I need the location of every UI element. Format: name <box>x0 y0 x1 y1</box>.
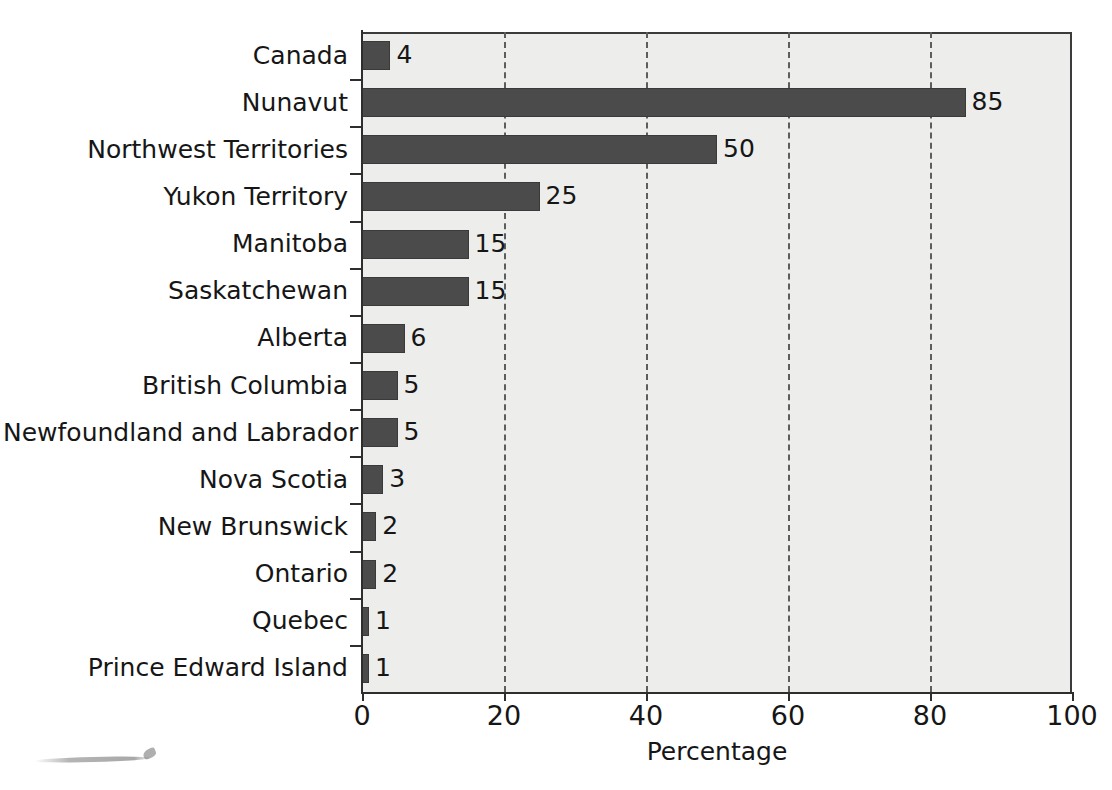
bar <box>362 324 405 353</box>
bar <box>362 560 376 589</box>
category-label: Prince Edward Island <box>3 653 348 683</box>
category-label: Newfoundland and Labrador <box>3 418 348 448</box>
bar <box>362 230 469 259</box>
category-label: British Columbia <box>3 371 348 401</box>
category-label: Nunavut <box>3 88 348 118</box>
bar-value-label: 15 <box>475 276 507 306</box>
x-tick-label: 60 <box>771 700 805 732</box>
bar-value-label: 2 <box>382 511 398 541</box>
bar-value-label: 3 <box>389 464 405 494</box>
category-label: Northwest Territories <box>3 135 348 165</box>
bar-value-label: 2 <box>382 559 398 589</box>
bar-value-label: 4 <box>396 40 412 70</box>
y-tick <box>350 551 362 553</box>
bar-value-label: 5 <box>404 417 420 447</box>
bar <box>362 277 469 306</box>
bar-chart-figure: 4855025151565532211 CanadaNunavutNorthwe… <box>0 0 1112 790</box>
x-tick-label: 80 <box>913 700 947 732</box>
category-label: Nova Scotia <box>3 465 348 495</box>
bar-value-label: 50 <box>723 134 755 164</box>
y-tick <box>350 598 362 600</box>
category-label: Saskatchewan <box>3 276 348 306</box>
category-label: Yukon Territory <box>3 182 348 212</box>
bar-value-label: 25 <box>546 181 578 211</box>
bar <box>362 182 540 211</box>
x-tick-label: 100 <box>1046 700 1098 732</box>
scan-artifact <box>34 755 152 763</box>
bar-value-label: 85 <box>972 87 1004 117</box>
scan-artifact-tip <box>142 747 157 760</box>
x-tick-label: 0 <box>353 700 370 732</box>
y-tick <box>350 456 362 458</box>
category-label: New Brunswick <box>3 512 348 542</box>
y-tick <box>350 409 362 411</box>
x-tick-label: 20 <box>487 700 521 732</box>
bar-value-label: 5 <box>404 370 420 400</box>
y-tick <box>350 503 362 505</box>
bar <box>362 41 390 70</box>
bar-value-label: 1 <box>375 653 391 683</box>
y-tick <box>350 645 362 647</box>
y-tick <box>350 79 362 81</box>
category-label: Quebec <box>3 606 348 636</box>
category-label: Manitoba <box>3 229 348 259</box>
bar <box>362 135 717 164</box>
bar-value-label: 15 <box>475 229 507 259</box>
y-tick <box>350 315 362 317</box>
bar <box>362 418 398 447</box>
category-label: Canada <box>3 41 348 71</box>
x-tick-label: 40 <box>629 700 663 732</box>
category-label: Ontario <box>3 559 348 589</box>
x-axis-title: Percentage <box>362 737 1072 767</box>
y-tick <box>350 221 362 223</box>
y-tick <box>350 126 362 128</box>
y-tick <box>350 173 362 175</box>
y-tick <box>350 268 362 270</box>
bar <box>362 371 398 400</box>
bar <box>362 512 376 541</box>
bar <box>362 88 966 117</box>
bar-value-label: 6 <box>411 323 427 353</box>
bar <box>362 465 383 494</box>
category-label: Alberta <box>3 323 348 353</box>
bar <box>362 607 369 636</box>
bar-value-label: 1 <box>375 606 391 636</box>
x-axis-line <box>361 692 1074 694</box>
y-axis-category-labels: CanadaNunavutNorthwest TerritoriesYukon … <box>0 32 348 692</box>
bar <box>362 654 369 683</box>
y-tick <box>350 362 362 364</box>
